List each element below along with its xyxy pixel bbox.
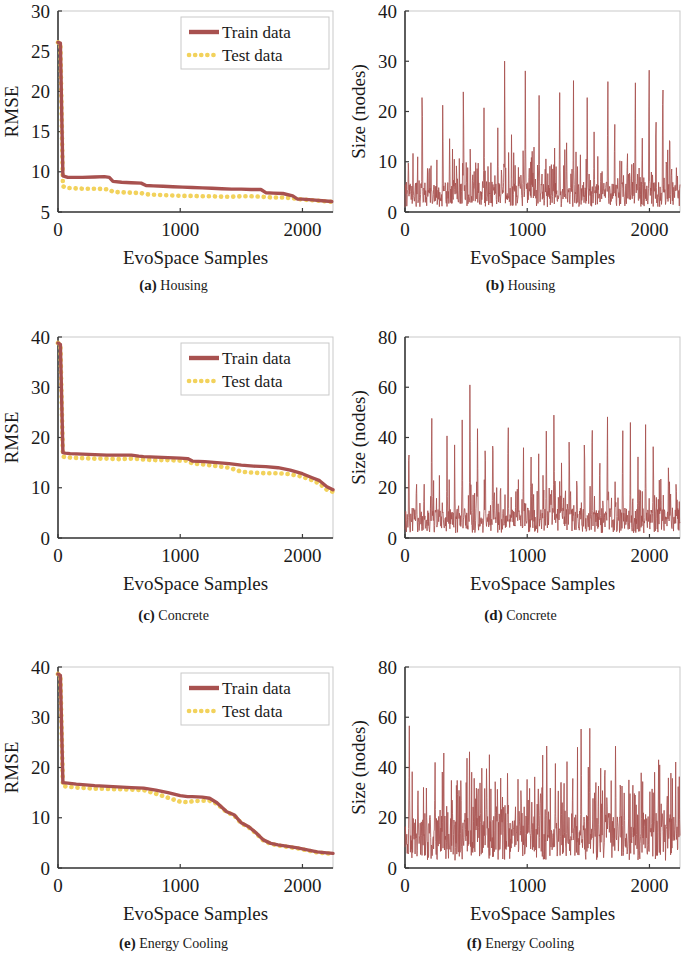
x-tick-label: 1000 (508, 545, 546, 566)
y-tick-label: 0 (388, 202, 398, 223)
y-tick-label: 10 (31, 477, 50, 498)
y-tick-label: 40 (31, 327, 50, 348)
panel-a: 51015202530010002000RMSEEvoSpace Samples… (0, 0, 347, 326)
y-tick-label: 60 (378, 707, 397, 728)
x-tick-label: 2000 (283, 219, 321, 240)
x-tick-label: 1000 (508, 875, 546, 896)
x-tick-label: 1000 (508, 219, 546, 240)
caption-a-tag: (a) (139, 277, 157, 293)
caption-f-tag: (f) (467, 935, 482, 951)
x-axis-label: EvoSpace Samples (123, 247, 268, 268)
caption-d-tag: (d) (484, 607, 502, 623)
panel-e: 010203040010002000RMSEEvoSpace SamplesTr… (0, 656, 347, 979)
panel-d: 020406080010002000Size (nodes)EvoSpace S… (347, 326, 694, 656)
y-axis-label: RMSE (1, 742, 22, 794)
x-tick-label: 0 (400, 875, 410, 896)
x-tick-label: 2000 (283, 545, 321, 566)
x-tick-label: 0 (400, 545, 410, 566)
y-tick-label: 80 (378, 327, 397, 348)
y-tick-label: 30 (31, 707, 50, 728)
caption-a-name: Housing (160, 278, 207, 293)
legend-test-label: Test data (222, 46, 283, 65)
caption-f: (f) Energy Cooling (347, 936, 694, 951)
y-tick-label: 10 (31, 161, 50, 182)
x-tick-label: 2000 (630, 219, 668, 240)
caption-c-tag: (c) (138, 607, 155, 623)
y-tick-label: 20 (31, 427, 50, 448)
caption-d: (d) Concrete (347, 608, 694, 623)
x-axis-label: EvoSpace Samples (470, 573, 615, 594)
y-tick-label: 30 (31, 377, 50, 398)
x-tick-label: 0 (53, 545, 63, 566)
y-axis-label: Size (nodes) (348, 720, 370, 814)
y-tick-label: 20 (31, 757, 50, 778)
y-tick-label: 30 (31, 1, 50, 22)
plot-d: 020406080010002000Size (nodes)EvoSpace S… (347, 326, 694, 598)
panel-c: 010203040010002000RMSEEvoSpace SamplesTr… (0, 326, 347, 656)
y-tick-label: 0 (388, 528, 398, 549)
x-tick-label: 0 (53, 219, 63, 240)
y-tick-label: 0 (41, 528, 51, 549)
x-axis-label: EvoSpace Samples (123, 903, 268, 924)
y-tick-label: 20 (378, 101, 397, 122)
legend-test-label: Test data (222, 702, 283, 721)
panel-f: 020406080010002000Size (nodes)EvoSpace S… (347, 656, 694, 979)
y-axis-label: RMSE (1, 412, 22, 464)
legend-train-label: Train data (222, 349, 291, 368)
y-axis-label: RMSE (1, 86, 22, 138)
caption-f-name: Energy Cooling (485, 936, 574, 951)
caption-e-name: Energy Cooling (139, 936, 228, 951)
y-tick-label: 30 (378, 51, 397, 72)
caption-e: (e) Energy Cooling (0, 936, 347, 951)
y-tick-label: 25 (31, 41, 50, 62)
plot-a: 51015202530010002000RMSEEvoSpace Samples… (0, 0, 347, 272)
y-tick-label: 40 (31, 657, 50, 678)
x-tick-label: 1000 (161, 875, 199, 896)
y-tick-label: 10 (31, 807, 50, 828)
figure-grid: 51015202530010002000RMSEEvoSpace Samples… (0, 0, 694, 979)
y-axis-label: Size (nodes) (348, 64, 370, 158)
legend-test-label: Test data (222, 372, 283, 391)
caption-c-name: Concrete (158, 608, 209, 623)
plot-e: 010203040010002000RMSEEvoSpace SamplesTr… (0, 656, 347, 928)
caption-a: (a) Housing (0, 278, 347, 293)
caption-c: (c) Concrete (0, 608, 347, 623)
y-tick-label: 10 (378, 151, 397, 172)
y-axis-label: Size (nodes) (348, 390, 370, 484)
plot-b: 010203040010002000Size (nodes)EvoSpace S… (347, 0, 694, 272)
plot-f: 020406080010002000Size (nodes)EvoSpace S… (347, 656, 694, 928)
x-axis-label: EvoSpace Samples (123, 573, 268, 594)
x-tick-label: 0 (53, 875, 63, 896)
x-tick-label: 1000 (161, 545, 199, 566)
caption-d-name: Concrete (506, 608, 557, 623)
caption-b-tag: (b) (486, 277, 504, 293)
x-tick-label: 2000 (630, 545, 668, 566)
x-tick-label: 2000 (630, 875, 668, 896)
y-tick-label: 15 (31, 121, 50, 142)
legend-train-label: Train data (222, 679, 291, 698)
y-tick-label: 5 (41, 202, 51, 223)
plot-c: 010203040010002000RMSEEvoSpace SamplesTr… (0, 326, 347, 598)
y-tick-label: 40 (378, 1, 397, 22)
y-tick-label: 20 (31, 81, 50, 102)
y-tick-label: 40 (378, 427, 397, 448)
x-tick-label: 0 (400, 219, 410, 240)
y-tick-label: 20 (378, 477, 397, 498)
caption-e-tag: (e) (119, 935, 136, 951)
panel-b: 010203040010002000Size (nodes)EvoSpace S… (347, 0, 694, 326)
y-tick-label: 60 (378, 377, 397, 398)
x-tick-label: 2000 (283, 875, 321, 896)
y-tick-label: 0 (388, 858, 398, 879)
x-tick-label: 1000 (161, 219, 199, 240)
x-axis-label: EvoSpace Samples (470, 247, 615, 268)
x-axis-label: EvoSpace Samples (470, 903, 615, 924)
y-tick-label: 80 (378, 657, 397, 678)
legend-train-label: Train data (222, 23, 291, 42)
y-tick-label: 0 (41, 858, 51, 879)
y-tick-label: 40 (378, 757, 397, 778)
y-tick-label: 20 (378, 807, 397, 828)
caption-b-name: Housing (508, 278, 555, 293)
caption-b: (b) Housing (347, 278, 694, 293)
